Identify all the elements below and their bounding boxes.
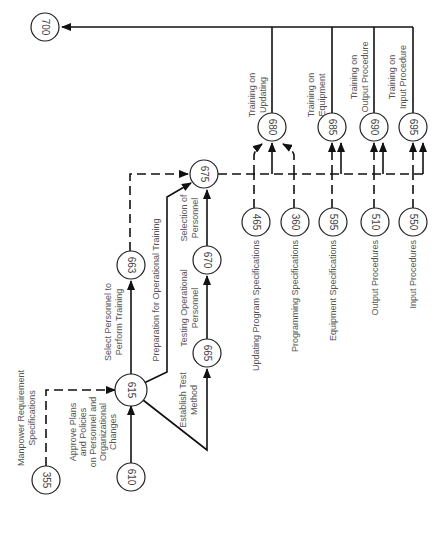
label-output-procedures: Output Procedures [370, 240, 380, 316]
node-610: 610 [117, 463, 145, 491]
svg-text:Updating: Updating [258, 77, 268, 113]
svg-text:Perform Training: Perform Training [114, 289, 124, 356]
svg-text:Personnel: Personnel [190, 288, 200, 329]
svg-text:Method: Method [189, 385, 199, 415]
node-595: 595 [319, 208, 347, 236]
svg-text:on Personnel and: on Personnel and [88, 397, 98, 468]
svg-text:Manpower Requirement: Manpower Requirement [16, 369, 26, 466]
svg-text:695: 695 [408, 119, 419, 136]
svg-text:Changes: Changes [108, 413, 118, 450]
label-equipment-specs: Equipment Specifications [328, 240, 338, 342]
svg-text:Programming Specifications: Programming Specifications [290, 240, 300, 353]
svg-text:Selection of: Selection of [179, 194, 189, 242]
svg-text:690: 690 [369, 119, 380, 136]
svg-text:685: 685 [327, 119, 338, 136]
label-training-input: Training on Input Procedure [387, 45, 408, 109]
svg-text:Select Personnel to: Select Personnel to [103, 283, 113, 361]
svg-text:Training on: Training on [306, 73, 316, 118]
svg-text:Establish Test: Establish Test [178, 372, 188, 428]
svg-text:Approve Plans: Approve Plans [68, 402, 78, 461]
label-establish-test: Establish Test Method [178, 372, 199, 428]
dummy-to-680-a [254, 144, 262, 174]
svg-text:670: 670 [202, 252, 213, 269]
node-670: 670 [193, 246, 221, 274]
svg-text:615: 615 [126, 382, 137, 399]
svg-text:Testing Operational: Testing Operational [179, 269, 189, 347]
svg-text:Output Procedure: Output Procedure [360, 41, 370, 112]
svg-text:Personnel: Personnel [190, 198, 200, 239]
svg-text:355: 355 [41, 472, 52, 489]
svg-text:Output Procedures: Output Procedures [370, 240, 380, 316]
svg-text:610: 610 [126, 469, 137, 486]
svg-text:Equipment: Equipment [317, 73, 327, 117]
node-695: 695 [399, 113, 427, 141]
node-675: 675 [190, 160, 218, 188]
node-615: 615 [115, 374, 147, 406]
svg-text:Training on: Training on [387, 55, 397, 100]
node-665: 665 [193, 339, 221, 367]
label-training-output: Training on Output Procedure [349, 41, 370, 112]
svg-text:Input Procedures: Input Procedures [408, 240, 418, 309]
svg-text:Training on: Training on [247, 73, 257, 118]
svg-text:Updating Program Specification: Updating Program Specifications [251, 240, 261, 372]
svg-text:Input Procedure: Input Procedure [398, 45, 408, 109]
svg-text:Preparation for Operational Tr: Preparation for Operational Training [151, 218, 161, 361]
svg-text:360: 360 [290, 214, 301, 231]
label-updating-program-specs: Updating Program Specifications [251, 240, 261, 372]
node-510: 510 [361, 208, 389, 236]
svg-text:550: 550 [408, 214, 419, 231]
svg-text:675: 675 [199, 166, 210, 183]
label-input-procedures: Input Procedures [408, 240, 418, 309]
label-training-updating: Training on Updating [247, 73, 268, 118]
dummy-to-680-c [283, 144, 294, 174]
label-preparation: Preparation for Operational Training [151, 218, 161, 361]
node-690: 690 [360, 113, 388, 141]
svg-text:Training on: Training on [349, 55, 359, 100]
node-680: 680 [258, 113, 286, 141]
svg-text:700: 700 [40, 19, 51, 36]
label-select-personnel: Select Personnel to Perform Training [103, 283, 124, 361]
svg-text:665: 665 [202, 345, 213, 362]
svg-text:510: 510 [370, 214, 381, 231]
node-700: 700 [31, 13, 59, 41]
node-550: 550 [399, 208, 427, 236]
svg-text:Organizational: Organizational [98, 403, 108, 461]
label-testing-operational: Testing Operational Personnel [179, 269, 200, 347]
svg-text:663: 663 [126, 257, 137, 274]
label-training-equipment: Training on Equipment [306, 73, 327, 118]
svg-text:595: 595 [328, 214, 339, 231]
node-355: 355 [32, 466, 60, 494]
svg-text:465: 465 [251, 214, 262, 231]
activity-network-diagram: 700 680 685 690 695 675 663 670 465 360 … [0, 0, 439, 537]
node-465: 465 [242, 208, 270, 236]
svg-text:Specifications: Specifications [27, 390, 37, 446]
node-360: 360 [281, 208, 309, 236]
svg-text:680: 680 [267, 119, 278, 136]
svg-text:Equipment Specifications: Equipment Specifications [328, 240, 338, 342]
svg-text:and Policies: and Policies [78, 407, 88, 456]
label-selection-personnel: Selection of Personnel [179, 194, 200, 242]
label-manpower-requirement: Manpower Requirement Specifications [16, 369, 37, 466]
node-663: 663 [117, 251, 145, 279]
label-approve-plans: Approve Plans and Policies on Personnel … [68, 397, 118, 468]
label-programming-specs: Programming Specifications [290, 240, 300, 353]
